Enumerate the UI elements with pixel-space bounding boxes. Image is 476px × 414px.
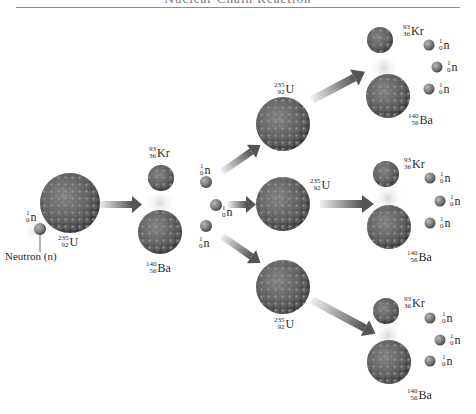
neutron-label: 10n	[222, 205, 233, 219]
neutron-label: 10n	[439, 38, 450, 52]
barium-label: 14056Ba	[407, 388, 432, 402]
barium-label: 14056Ba	[146, 261, 171, 275]
arrow-bottom-right	[308, 292, 380, 342]
barium-nucleus	[367, 340, 411, 384]
uranium-nucleus-bottom	[256, 260, 310, 314]
barium-nucleus	[138, 210, 182, 254]
neutron-label: 10n	[442, 354, 453, 368]
released-neutron	[200, 176, 212, 188]
uranium-nucleus-middle	[256, 177, 310, 231]
neutron-label: 10n	[26, 210, 37, 224]
krypton-label: 9336Kr	[149, 146, 170, 160]
arrow-top-right	[308, 64, 369, 108]
neutron-label: 10n	[439, 82, 450, 96]
arrow-mid-right	[320, 195, 374, 213]
neutron-label: 10n	[200, 163, 211, 177]
krypton-label: 9336Kr	[404, 296, 425, 310]
neutron-label: 10n	[199, 236, 210, 250]
neutron-label: 10n	[450, 333, 461, 347]
uranium-label: 23592U	[274, 317, 294, 331]
barium-nucleus	[367, 205, 411, 249]
uranium-label: 23592U	[274, 82, 294, 96]
barium-label: 14056Ba	[407, 250, 432, 264]
barium-label: 14056Ba	[408, 113, 433, 127]
krypton-nucleus	[373, 298, 399, 324]
krypton-label: 9336Kr	[403, 24, 424, 38]
krypton-nucleus	[148, 165, 174, 191]
arrow-down	[217, 229, 265, 269]
neutron-label: 10n	[447, 60, 458, 74]
neutron-label: 10n	[440, 216, 451, 230]
released-neutron	[210, 199, 222, 211]
krypton-nucleus	[367, 27, 393, 53]
neutron-label: 10n	[450, 194, 461, 208]
neutron-label: 10n	[442, 311, 453, 325]
arrow-up	[217, 138, 265, 178]
neutron-caption: Neutron (n)	[5, 250, 57, 262]
barium-nucleus	[366, 74, 410, 118]
uranium-label: 23592U	[58, 235, 78, 249]
neutron-label: 10n	[440, 171, 451, 185]
arrow-1	[100, 196, 142, 213]
fission-diagram	[0, 0, 476, 414]
uranium-label: 23592U	[310, 178, 330, 192]
uranium-nucleus-initial	[40, 173, 100, 233]
uranium-nucleus-top	[256, 97, 310, 151]
released-neutron	[200, 220, 212, 232]
incoming-neutron	[34, 223, 46, 235]
krypton-label: 9336Kr	[404, 157, 425, 171]
krypton-nucleus	[373, 161, 399, 187]
